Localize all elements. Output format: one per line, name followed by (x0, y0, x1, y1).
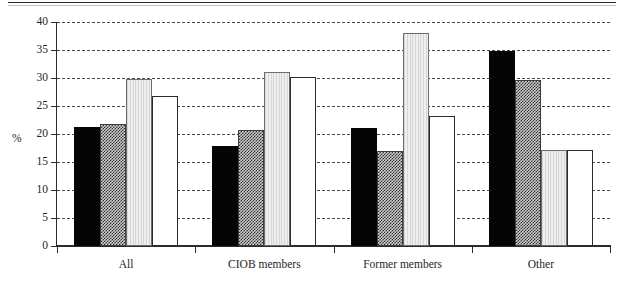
bar-ciob-members-series-3 (264, 72, 290, 246)
y-axis-title: % (12, 132, 22, 144)
bar-former-members-series-1 (351, 128, 377, 246)
x-tick-2 (334, 246, 335, 253)
y-tick-15 (51, 162, 58, 163)
x-axis-label-ciob-members: CIOB members (228, 258, 301, 270)
page-top-rule-secondary (8, 5, 616, 6)
y-tick-25 (51, 106, 58, 107)
bar-former-members-series-4 (429, 116, 455, 246)
y-tick-label-0: 0 (42, 240, 48, 252)
y-tick-label-30: 30 (37, 72, 49, 84)
page-top-rule (8, 2, 616, 3)
x-axis-label-former-members: Former members (363, 258, 442, 270)
bar-other-series-4 (567, 150, 593, 246)
bar-ciob-members-series-1 (212, 146, 238, 246)
plot-area: 0510152025303540 AllCIOB membersFormer m… (57, 22, 610, 246)
x-tick-1 (195, 246, 196, 253)
bar-all-series-3 (126, 79, 152, 246)
y-tick-30 (51, 78, 58, 79)
bar-ciob-members-series-4 (290, 77, 316, 246)
y-tick-label-20: 20 (37, 128, 49, 140)
bar-other-series-1 (489, 51, 515, 246)
bar-all-series-1 (74, 127, 100, 246)
gridline-35 (57, 50, 610, 51)
x-axis-label-other: Other (528, 258, 554, 270)
gridline-40 (57, 22, 610, 23)
bar-other-series-3 (541, 150, 567, 246)
y-tick-20 (51, 134, 58, 135)
bar-all-series-2 (100, 124, 126, 246)
y-tick-35 (51, 50, 58, 51)
bar-former-members-series-3 (403, 33, 429, 246)
bar-other-series-2 (515, 80, 541, 246)
x-tick-0 (57, 246, 58, 253)
y-tick-label-40: 40 (37, 16, 49, 28)
y-tick-label-5: 5 (42, 212, 48, 224)
x-axis-label-all: All (119, 258, 134, 270)
y-tick-label-15: 15 (37, 156, 49, 168)
x-tick-3 (472, 246, 473, 253)
y-tick-10 (51, 190, 58, 191)
chart-figure: % 0510152025303540 AllCIOB membersFormer… (0, 0, 621, 285)
bar-all-series-4 (152, 96, 178, 246)
y-tick-40 (51, 22, 58, 23)
bar-former-members-series-2 (377, 151, 403, 246)
y-tick-label-25: 25 (37, 100, 49, 112)
y-tick-5 (51, 218, 58, 219)
y-tick-label-10: 10 (37, 184, 49, 196)
bar-ciob-members-series-2 (238, 130, 264, 246)
x-tick-4 (610, 246, 611, 253)
y-tick-label-35: 35 (37, 44, 49, 56)
